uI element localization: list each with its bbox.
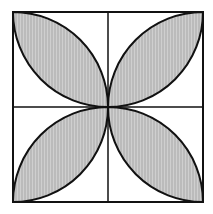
petal-bottom-left bbox=[13, 107, 108, 202]
four-petal-square-diagram bbox=[0, 0, 213, 214]
petal-top-right bbox=[108, 12, 203, 107]
petal-top-left bbox=[13, 12, 108, 107]
petal-bottom-right bbox=[108, 107, 203, 202]
